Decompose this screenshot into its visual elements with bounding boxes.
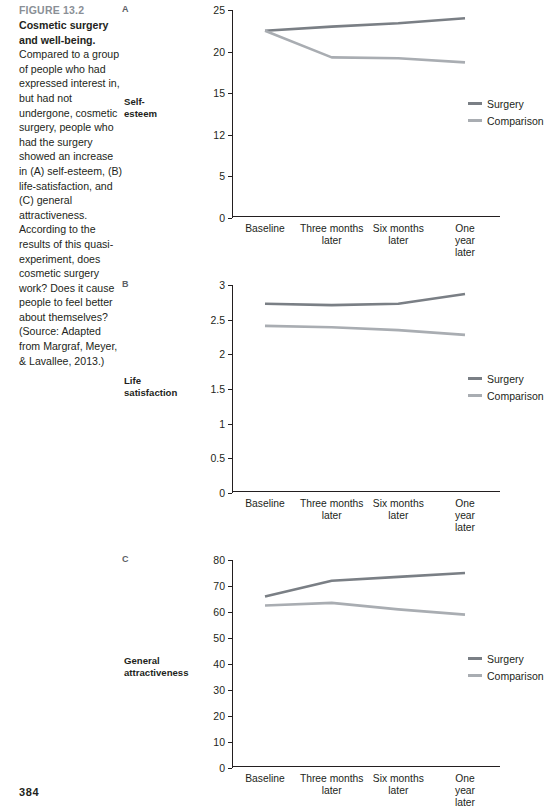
y-axis-tick-label: 80 (213, 554, 225, 566)
legend-label-comparison: Comparison (487, 115, 544, 127)
plot-area-c: 01020304050607080BaselineThree months la… (232, 560, 500, 767)
y-axis-tick (228, 612, 232, 613)
x-axis-tick-label: Three months later (300, 223, 364, 247)
y-axis-tick-label: 20 (213, 710, 225, 722)
series-line-comparison (265, 326, 465, 335)
x-axis-tick-label: One year later (448, 773, 483, 809)
series-line-surgery (265, 18, 465, 31)
chart-panel-b: B Lifesatisfaction 00.511.522.53Baseline… (0, 275, 560, 550)
y-axis-tick-label: 1.5 (210, 383, 225, 395)
series-line-comparison (265, 603, 465, 615)
y-axis-tick (228, 354, 232, 355)
panel-letter-a: A (122, 4, 129, 14)
series-lines-b (232, 285, 500, 493)
y-axis-tick (228, 389, 232, 390)
y-axis-tick-label: 60 (213, 606, 225, 618)
panel-letter-b: B (122, 279, 129, 289)
x-axis-tick-label: Baseline (245, 498, 285, 510)
legend-item-surgery: Surgery (468, 95, 544, 112)
x-axis-tick-label: Baseline (245, 773, 285, 785)
y-axis-tick (228, 742, 232, 743)
y-axis-tick-label: 5 (219, 170, 225, 182)
x-axis-tick-label: Six months later (373, 773, 424, 797)
y-axis-tick (228, 690, 232, 691)
legend-swatch-comparison (468, 119, 482, 122)
y-axis-tick-label: 0 (219, 212, 225, 224)
panel-title-a: Self-esteem (124, 96, 198, 119)
legend-swatch-surgery (468, 102, 482, 105)
panel-title-b: Lifesatisfaction (124, 375, 198, 398)
y-axis-tick-label: 0 (219, 762, 225, 774)
y-axis-tick (228, 560, 232, 561)
legend-item-comparison: Comparison (468, 112, 544, 129)
x-axis-tick-label: Six months later (373, 498, 424, 522)
y-axis-tick-label: 40 (213, 658, 225, 670)
y-axis-tick (228, 135, 232, 136)
panel-letter-c: C (122, 554, 129, 564)
x-axis-tick-label: Six months later (373, 223, 424, 247)
legend-a: Surgery Comparison (468, 95, 544, 129)
series-lines-c (232, 560, 500, 768)
y-axis-tick (228, 664, 232, 665)
y-axis-tick (228, 176, 232, 177)
x-axis-tick-label: Three months later (300, 773, 364, 797)
y-axis-tick (228, 218, 232, 219)
y-axis-tick-label: 50 (213, 632, 225, 644)
legend-label-comparison: Comparison (487, 390, 544, 402)
y-axis-tick-label: 0.5 (210, 452, 225, 464)
series-line-comparison (265, 31, 465, 63)
y-axis-tick (228, 586, 232, 587)
plot-area-b: 00.511.522.53BaselineThree months laterS… (232, 285, 500, 492)
legend-label-surgery: Surgery (487, 653, 524, 665)
x-axis-tick-label: Baseline (245, 223, 285, 235)
panel-title-c: Generalattractiveness (124, 655, 198, 678)
y-axis-tick-label: 1 (219, 418, 225, 430)
y-axis-tick (228, 493, 232, 494)
legend-item-surgery: Surgery (468, 650, 544, 667)
legend-label-comparison: Comparison (487, 670, 544, 682)
chart-panel-a: A Self-esteem 0512152025BaselineThree mo… (0, 0, 560, 275)
legend-c: Surgery Comparison (468, 650, 544, 684)
y-axis-tick (228, 285, 232, 286)
legend-label-surgery: Surgery (487, 98, 524, 110)
y-axis-tick-label: 0 (219, 487, 225, 499)
y-axis-tick (228, 638, 232, 639)
y-axis-tick (228, 320, 232, 321)
y-axis-tick-label: 2 (219, 348, 225, 360)
y-axis-tick-label: 3 (219, 279, 225, 291)
series-lines-a (232, 10, 500, 218)
y-axis-tick (228, 424, 232, 425)
y-axis-tick (228, 52, 232, 53)
x-axis-tick-label: One year later (448, 498, 483, 534)
plot-area-a: 0512152025BaselineThree months laterSix … (232, 10, 500, 217)
y-axis-tick-label: 15 (213, 87, 225, 99)
legend-swatch-surgery (468, 657, 482, 660)
y-axis-tick (228, 716, 232, 717)
legend-swatch-comparison (468, 394, 482, 397)
y-axis-tick-label: 2.5 (210, 314, 225, 326)
y-axis-tick (228, 768, 232, 769)
legend-b: Surgery Comparison (468, 370, 544, 404)
y-axis-tick-label: 10 (213, 736, 225, 748)
legend-label-surgery: Surgery (487, 373, 524, 385)
x-axis-tick-label: One year later (448, 223, 483, 259)
x-axis-tick-label: Three months later (300, 498, 364, 522)
y-axis-tick-label: 12 (213, 129, 225, 141)
y-axis-tick-label: 25 (213, 4, 225, 16)
legend-swatch-surgery (468, 377, 482, 380)
legend-swatch-comparison (468, 674, 482, 677)
legend-item-surgery: Surgery (468, 370, 544, 387)
legend-item-comparison: Comparison (468, 387, 544, 404)
series-line-surgery (265, 294, 465, 305)
y-axis-tick-label: 30 (213, 684, 225, 696)
series-line-surgery (265, 573, 465, 596)
y-axis-tick (228, 10, 232, 11)
legend-item-comparison: Comparison (468, 667, 544, 684)
y-axis-tick-label: 70 (213, 580, 225, 592)
y-axis-tick (228, 458, 232, 459)
y-axis-tick-label: 20 (213, 46, 225, 58)
y-axis-tick (228, 93, 232, 94)
